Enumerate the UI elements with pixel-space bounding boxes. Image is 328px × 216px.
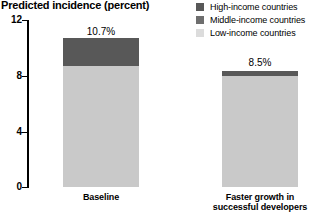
bar-caption-faster-growth: Faster growth in successful developers [190, 192, 328, 212]
y-axis-tick-label-12: 12 [0, 15, 22, 25]
chart-title: Predicted incidence (percent) [1, 0, 149, 12]
bar-group-faster-growth: 8.5% [222, 20, 298, 187]
y-axis-tick-0 [22, 187, 27, 188]
bar-value-faster-growth: 8.5% [222, 57, 298, 68]
bar-caption-baseline-line1: Baseline [31, 192, 171, 202]
legend-swatch-low-income [196, 29, 204, 37]
y-axis-tick-label-4: 4 [0, 127, 22, 137]
bar-baseline[interactable] [63, 38, 139, 187]
legend-item-high-income: High-income countries [196, 1, 328, 13]
y-axis-tick-label-8: 8 [0, 71, 22, 81]
y-axis-tick-8 [22, 76, 27, 77]
bar-caption-baseline: Baseline [31, 192, 171, 202]
bar-group-baseline: 10.7% [63, 20, 139, 187]
bar-segment-low-income-faster-growth [222, 76, 298, 187]
bar-value-baseline: 10.7% [63, 26, 139, 37]
y-axis-tick-12 [22, 20, 27, 21]
bar-faster-growth[interactable] [222, 71, 298, 187]
bar-caption-faster-growth-line1: Faster growth in [190, 192, 328, 202]
y-axis-line [27, 20, 29, 188]
y-axis-tick-4 [22, 132, 27, 133]
bar-caption-faster-growth-line2: successful developers [190, 202, 328, 212]
bar-segment-low-income-baseline [63, 66, 139, 187]
y-axis-tick-label-0: 0 [0, 182, 22, 192]
bar-segment-high-income-baseline [63, 38, 139, 66]
legend-swatch-high-income [196, 3, 204, 11]
legend-swatch-middle-income [196, 16, 204, 24]
chart-container: Predicted incidence (percent) High-incom… [0, 0, 328, 216]
legend-label-high-income: High-income countries [210, 2, 297, 13]
